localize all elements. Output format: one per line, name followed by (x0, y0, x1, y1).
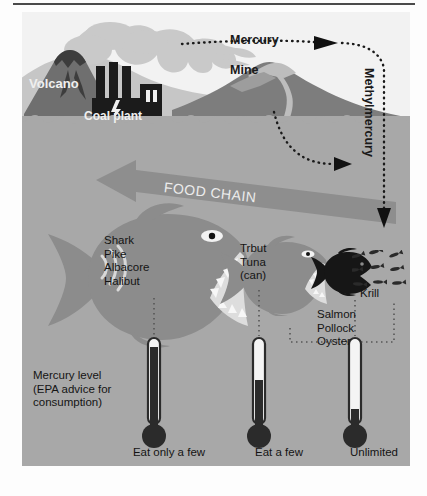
water-surface-waves (22, 112, 410, 134)
thermometer-low-caption: Unlimited (332, 446, 410, 458)
thermometer-low (340, 336, 370, 454)
low-level-fish-species-label: Salmon Pollock Oyster (317, 308, 356, 349)
top-divider-rule (13, 3, 415, 5)
top-predator-fish-species-label: Shark Pike Albacore Halibut (104, 234, 149, 288)
thermometer-high-caption-line2: time per month (74, 464, 224, 466)
thermometer-high (139, 336, 169, 454)
mercury-level-legend-label: Mercury level (EPA advice for consumptio… (33, 369, 111, 410)
mercury-label: Mercury (230, 33, 279, 48)
methylmercury-label: Methylmercury (361, 68, 376, 157)
infographic-page: Volcano Coal plant Mine Mercury Methylme… (0, 0, 427, 496)
thermometer-medium (244, 336, 274, 454)
thermometer-medium-caption: Eat a few (234, 446, 324, 458)
volcano-label: Volcano (29, 76, 79, 91)
mid-level-fish-species-label: Trbut Tuna (can) (240, 242, 266, 283)
thermometer-medium-caption-line2: times per week (224, 464, 374, 466)
mine-label: Mine (230, 63, 258, 78)
illustration-frame: Volcano Coal plant Mine Mercury Methylme… (22, 12, 410, 466)
thermometer-high-caption: Eat only a few (114, 446, 224, 458)
coal-plant-label: Coal plant (84, 109, 142, 123)
krill-label: Krill (360, 287, 379, 301)
